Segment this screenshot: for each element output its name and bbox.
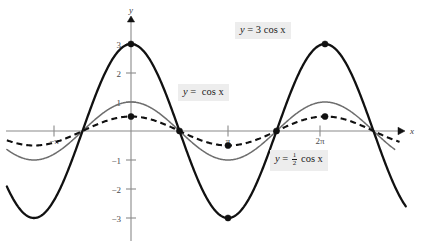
marked-point: [128, 41, 134, 47]
equation-cos-lhs: y: [183, 86, 188, 97]
axes-group: [6, 16, 405, 241]
y-tick-label-1: 1: [117, 98, 122, 108]
cosine-amplitude-figure: −π π 2π 3 2 1 −1 −2 −3 x y y = 3 cos x y…: [0, 0, 425, 247]
x-axis-label: x: [409, 126, 414, 136]
fraction-denominator: 2: [292, 160, 298, 167]
equation-half-rhs: cos x: [301, 153, 323, 164]
x-axis-arrowhead: [398, 127, 405, 135]
equation-label-3cos: y = 3 cos x: [235, 22, 291, 39]
x-tick-label-2pi: 2π: [315, 136, 325, 146]
equation-3cos-rhs: 3 cos x: [256, 24, 286, 35]
one-half-fraction: 12: [292, 152, 298, 168]
marked-point: [322, 113, 328, 119]
tick-labels: −π π 2π 3 2 1 −1 −2 −3 x y: [49, 5, 414, 224]
y-tick-label-neg-1: −1: [111, 156, 121, 166]
equation-3cos-eq: =: [247, 24, 253, 35]
equation-half-eq: =: [282, 153, 288, 164]
marked-point: [176, 128, 182, 134]
marked-point: [273, 128, 279, 134]
marked-point: [225, 215, 231, 221]
y-tick-label-neg-2: −2: [111, 185, 121, 195]
marked-point: [128, 113, 134, 119]
equation-cos-eq: =: [190, 86, 196, 97]
equation-3cos-lhs: y: [240, 24, 245, 35]
equation-cos-rhs: cos x: [199, 86, 224, 97]
equation-label-cos: y = cos x: [178, 84, 229, 101]
equation-half-lhs: y: [275, 153, 280, 164]
marked-point: [225, 142, 231, 148]
y-tick-label-neg-3: −3: [111, 214, 121, 224]
y-axis-arrowhead: [127, 16, 134, 22]
plot-canvas: −π π 2π 3 2 1 −1 −2 −3 x y: [0, 0, 425, 247]
y-tick-label-2: 2: [117, 69, 122, 79]
equation-label-half-cos: y = 12 cos x: [270, 150, 328, 171]
marked-point: [322, 41, 328, 47]
y-axis-label: y: [128, 5, 133, 15]
